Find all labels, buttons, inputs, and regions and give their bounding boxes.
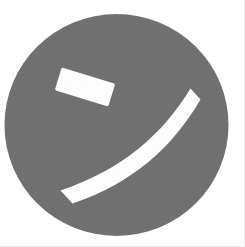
logo-canvas: Stylized smiley face mark: solid gray ci… [0, 0, 245, 247]
scan-edge-right [244, 0, 245, 247]
logo-mark-graphic [0, 0, 245, 247]
